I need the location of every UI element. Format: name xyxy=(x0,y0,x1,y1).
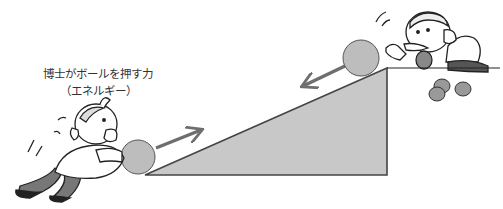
ball-bottom xyxy=(121,140,155,174)
professor-pushing-figure xyxy=(16,98,124,202)
professor-top-figure xyxy=(376,12,500,72)
ball-top xyxy=(343,40,379,76)
push-up-arrow xyxy=(156,130,201,148)
slope-triangle xyxy=(145,68,387,175)
illustration xyxy=(0,0,503,209)
spare-balls xyxy=(429,79,471,101)
roll-down-arrow xyxy=(303,66,345,86)
